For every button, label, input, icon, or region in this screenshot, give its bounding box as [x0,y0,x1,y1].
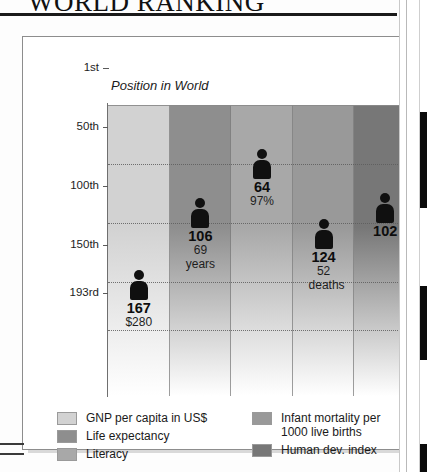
marker-detail-label: $280 [124,316,154,330]
legend-swatch [57,412,77,425]
scanned-page: WORLD RANKING Position in World 1st50th1… [0,0,427,472]
scan-artifact-block-1 [420,112,427,208]
person-icon [374,193,396,223]
legend-label-line: Infant mortality per [281,411,380,425]
person-icon [189,198,211,228]
title-underline-rule [27,13,397,16]
bar-column[interactable] [108,105,170,396]
y-axis-tick-label: 193rd [70,286,99,298]
data-marker[interactable]: 12452deaths [309,219,339,292]
legend-item[interactable]: Infant mortality per1000 live births [252,411,422,439]
legend-swatch [252,412,272,425]
person-icon [313,219,335,249]
page-edge-rule-upper [0,443,24,445]
gridline [108,330,416,331]
y-axis-tick-label: 150th [70,238,99,250]
y-axis-title: Position in World [111,78,209,93]
data-marker[interactable]: 6497% [247,149,277,209]
gridline [108,105,416,106]
data-marker[interactable]: 167$280 [124,270,154,330]
legend-label: Life expectancy [86,429,169,443]
person-icon [128,270,150,300]
scan-artifact-block-3 [420,444,427,472]
legend-label-line: 1000 live births [281,425,380,439]
data-marker[interactable]: 102 [370,193,400,239]
y-axis-tick-label: 50th [77,120,99,132]
legend-swatch [57,430,77,443]
marker-detail-label: 97% [247,195,277,209]
legend: GNP per capita in US$Life expectancyLite… [57,411,417,472]
page-edge-line-outer [406,0,407,472]
legend-label: Literacy [86,447,128,461]
marker-detail-label: deaths [309,279,339,293]
legend-item[interactable]: GNP per capita in US$ [57,411,232,425]
gridline [108,282,416,283]
page-binding-edge [399,0,427,472]
legend-label: GNP per capita in US$ [86,411,207,425]
legend-column-left: GNP per capita in US$Life expectancyLite… [57,411,232,465]
marker-rank-label: 106 [185,229,215,244]
scan-artifact-block-2 [420,286,427,360]
marker-detail-label: 52 [309,265,339,279]
y-axis-tick-mark [103,68,109,69]
data-marker[interactable]: 10669years [185,198,215,271]
legend-label: Human dev. index [281,443,377,457]
chart-panel: Position in World 1st50th100th150th193rd… [22,36,408,450]
legend-label: Infant mortality per1000 live births [281,411,380,439]
legend-item[interactable]: Literacy [57,447,232,461]
title-rule-left-segment [0,13,28,16]
page-edge-line-inner [419,0,420,472]
marker-rank-label: 124 [309,250,339,265]
y-axis-tick-label: 100th [70,179,99,191]
legend-swatch [252,444,272,457]
marker-rank-label: 167 [124,301,154,316]
legend-column-right: Infant mortality per1000 live birthsHuma… [252,411,422,461]
y-axis-tick-label: 1st [84,61,99,73]
legend-item[interactable]: Life expectancy [57,429,232,443]
legend-item[interactable]: Human dev. index [252,443,422,457]
marker-rank-label: 102 [370,224,400,239]
marker-detail-label: 69 [185,244,215,258]
person-icon [251,149,273,179]
page-edge-rule-lower [0,453,24,455]
marker-detail-label: years [185,258,215,272]
plot-area: 167$28010669years6497%12452deaths102 [108,105,416,396]
marker-rank-label: 64 [247,180,277,195]
legend-swatch [57,448,77,461]
